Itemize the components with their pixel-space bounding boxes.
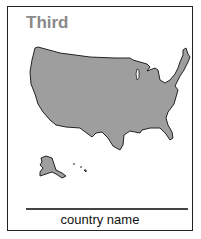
- us-map: [0, 0, 201, 239]
- hawaii-shape: [73, 164, 86, 172]
- contiguous-us-shape: [30, 47, 190, 150]
- great-lakes-shape: [136, 69, 139, 80]
- alaska-shape: [40, 156, 66, 178]
